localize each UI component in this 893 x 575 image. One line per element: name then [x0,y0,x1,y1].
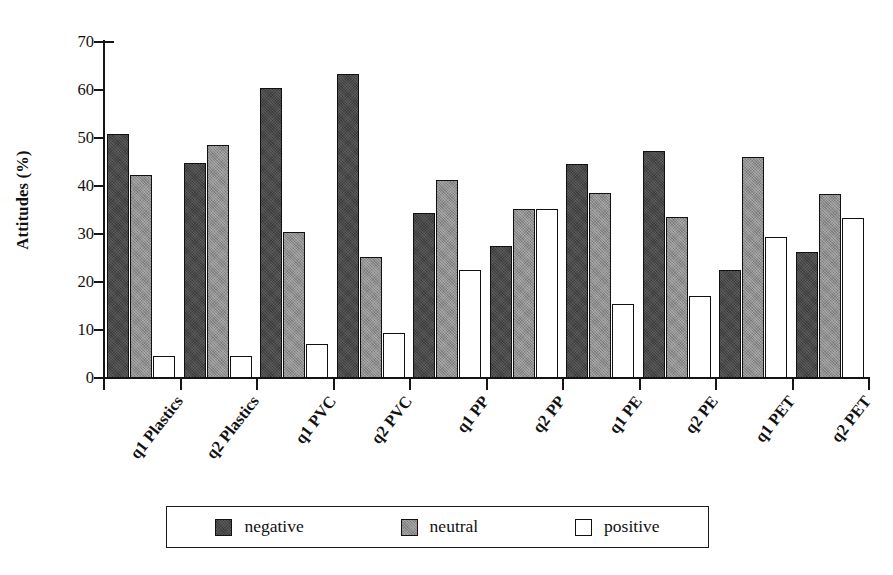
x-axis-tick-mark [180,377,182,390]
y-axis-tick-label: 0 [86,370,103,387]
y-axis-tick-label: 20 [78,274,104,291]
bar-neutral [436,180,458,378]
bar-positive [536,209,558,378]
bar-negative [337,74,359,378]
legend-label: negative [244,518,303,536]
x-axis-tick-label-text: q2 PE [681,392,723,438]
x-axis-tick-mark [409,377,411,390]
x-axis-tick-label-text: q1 PET [750,392,799,447]
y-axis-tick-label: 30 [78,226,104,243]
bar-positive [612,304,634,378]
bar-group [180,42,257,378]
bar-group [562,42,639,378]
bar-negative [413,213,435,378]
bar-neutral [666,217,688,378]
bar-group [486,42,563,378]
bar-positive [842,218,864,378]
legend-label: positive [604,518,659,536]
x-axis-tick-mark [792,377,794,390]
bar-negative [796,252,818,378]
bar-positive [230,356,252,378]
bar-negative [719,270,741,378]
bar-negative [107,134,129,378]
bar-group [333,42,410,378]
bar-positive [765,237,787,378]
legend: negativeneutralpositive [166,506,709,548]
bar-neutral [589,193,611,378]
legend-swatch-neutral-icon [401,519,418,536]
legend-item-positive[interactable]: positive [575,518,659,536]
legend-swatch-positive-icon [575,519,592,536]
bar-neutral [283,232,305,378]
bar-neutral [513,209,535,378]
x-axis-tick-label-text: q1 PVC [290,392,340,448]
bar-negative [643,151,665,378]
plot-area: 010203040506070 [103,42,868,378]
bar-chart-figure: Attitudes (%) 010203040506070 q1 Plastic… [0,0,893,575]
y-axis-tick-label: 60 [78,82,104,99]
legend-item-negative[interactable]: negative [215,518,303,536]
x-axis-tick-mark [256,377,258,390]
bar-group [409,42,486,378]
x-axis-tick-label-text: q2 PP [528,392,569,437]
y-axis-label: Attitudes (%) [0,0,46,400]
legend-swatch-negative-icon [215,519,232,536]
bar-group [792,42,869,378]
bar-neutral [130,175,152,378]
x-axis-tick-label-text: q2 PVC [367,392,417,448]
bar-neutral [360,257,382,378]
legend-label: neutral [430,518,479,536]
bar-group [103,42,180,378]
bar-negative [566,164,588,378]
y-axis-tick-label: 10 [78,322,104,339]
bar-negative [260,88,282,378]
bar-group [639,42,716,378]
bar-neutral [819,194,841,378]
bar-neutral [207,145,229,378]
x-axis-tick-label-text: q2 PET [827,392,876,447]
y-axis-tick-label: 50 [78,130,104,147]
bar-group [256,42,333,378]
legend-item-neutral[interactable]: neutral [401,518,479,536]
bar-group [715,42,792,378]
x-axis-tick-label-text: q1 PE [604,392,646,438]
x-axis-tick-mark [868,377,870,390]
bar-negative [184,163,206,378]
x-axis-tick-label-text: q1 PP [452,392,493,437]
x-axis-tick-mark [103,377,105,390]
x-axis-tick-mark [715,377,717,390]
x-axis-tick-mark [639,377,641,390]
x-axis-tick-mark [333,377,335,390]
bar-positive [306,344,328,378]
bar-positive [689,296,711,378]
x-axis-tick-label-text: q1 Plastics [125,392,187,463]
y-axis-tick-label: 70 [78,34,104,51]
bar-positive [153,356,175,378]
bar-neutral [742,157,764,378]
bar-positive [459,270,481,378]
bar-positive [383,333,405,378]
y-axis-label-text: Attitudes (%) [13,150,33,249]
x-axis-tick-label-text: q2 Plastics [202,392,264,463]
bar-negative [490,246,512,378]
y-axis-tick-label: 40 [78,178,104,195]
x-axis-tick-mark [562,377,564,390]
x-axis-tick-mark [486,377,488,390]
